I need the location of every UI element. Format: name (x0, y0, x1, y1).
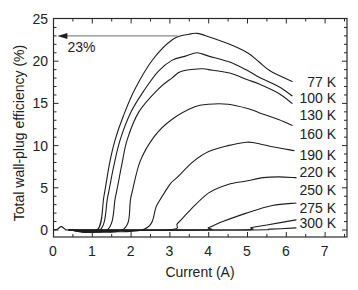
x-tick-label: 5 (243, 243, 251, 259)
x-tick-label: 2 (127, 243, 135, 259)
y-tick-label: 20 (32, 53, 48, 69)
series-label-130k: 130 K (299, 107, 336, 123)
y-tick-label: 5 (40, 180, 48, 196)
series-label-250k: 250 K (299, 182, 336, 198)
curve-77k (54, 33, 293, 232)
series-label-77k: 77 K (307, 74, 336, 90)
chart-canvas: 012345670510152025 77 K100 K130 K160 K19… (0, 0, 358, 290)
curves (54, 33, 297, 232)
x-axis-label: Current (A) (165, 264, 234, 280)
series-label-300k: 300 K (299, 215, 336, 231)
series-labels: 77 K100 K130 K160 K190 K220 K250 K275 K3… (299, 74, 336, 231)
x-tick-label: 6 (282, 243, 290, 259)
y-tick-label: 25 (32, 11, 48, 27)
x-tick-label: 4 (204, 243, 212, 259)
y-tick-label: 0 (40, 222, 48, 238)
x-tick-label: 1 (88, 243, 96, 259)
x-tick-label: 0 (49, 243, 57, 259)
x-tick-label: 7 (321, 243, 329, 259)
series-label-160k: 160 K (299, 126, 336, 142)
series-label-220k: 220 K (299, 164, 336, 180)
y-tick-label: 10 (32, 138, 48, 154)
curve-300k (69, 228, 296, 230)
arrow-left-icon (57, 33, 67, 39)
series-label-100k: 100 K (299, 90, 336, 106)
efficiency-vs-current-chart: 012345670510152025 77 K100 K130 K160 K19… (0, 0, 358, 290)
y-tick-label: 15 (32, 95, 48, 111)
curve-190k (69, 142, 294, 232)
series-label-190k: 190 K (299, 147, 336, 163)
y-axis-label: Total wall-plug efficiency (%) (11, 45, 27, 221)
peak-efficiency-label: 23% (67, 39, 95, 55)
x-tick-label: 3 (166, 243, 174, 259)
series-label-275k: 275 K (299, 200, 336, 216)
